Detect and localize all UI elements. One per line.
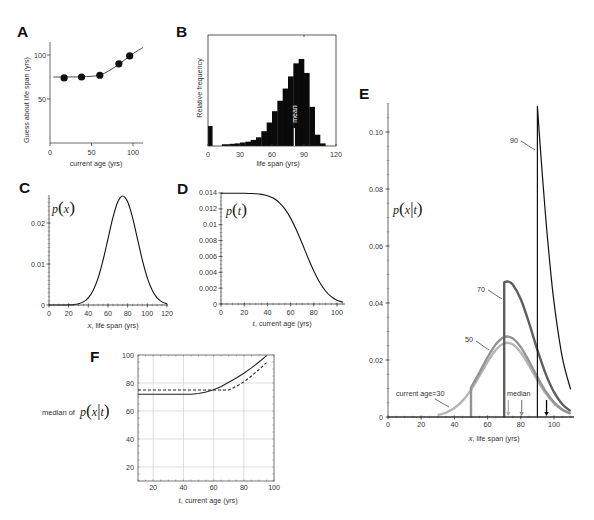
curve-label: 90 <box>510 136 518 145</box>
x-tick-label: 80 <box>124 309 132 318</box>
x-tick-label: 40 <box>263 308 271 317</box>
x-tick-label: 0 <box>386 420 390 429</box>
histogram-bar <box>309 107 315 146</box>
x-tick-label: 30 <box>236 150 244 159</box>
histogram-bar <box>240 143 246 146</box>
y-tick-label: 0.014 <box>199 188 217 197</box>
y-tick-label: 0 <box>41 301 45 310</box>
median-dashed-line <box>138 363 267 390</box>
panel-e-median-label: median <box>507 389 531 398</box>
x-axis-label-text: , current age (yrs) <box>181 496 238 505</box>
panel-letter-c: C <box>19 179 30 196</box>
math-glyph: ) <box>241 199 247 219</box>
x-tick-label: 100 <box>141 309 153 318</box>
math-glyph: ) <box>417 198 423 218</box>
panel-e-posterior-pxt: E x, life span (yrs) p(x|t) median 00.02… <box>359 85 574 443</box>
math-glyph: ) <box>104 400 110 420</box>
panel-e-plot-area: 00.020.040.060.080.10020406080100current… <box>369 104 574 430</box>
y-tick-label: 0.004 <box>199 268 217 277</box>
x-tick-label: 40 <box>179 483 187 492</box>
panel-d-pt: D t, current age (yrs) p(t) 00.0020.0040… <box>177 180 345 328</box>
panel-e-y-math-label: p(x|t) <box>392 198 423 218</box>
panel-letter-b: B <box>176 23 187 40</box>
histogram-bar <box>245 142 251 146</box>
data-point-marker <box>115 60 122 67</box>
math-glyph: p <box>51 202 58 216</box>
panel-b-x-axis-label: life span (yrs) <box>256 159 299 168</box>
x-tick-label: 90 <box>300 150 308 159</box>
histogram-bar <box>267 123 273 146</box>
x-tick-label: 0 <box>48 148 52 157</box>
x-tick-label: 20 <box>65 309 73 318</box>
panel-letter-f: F <box>90 348 99 365</box>
x-axis-label-text: , life span (yrs) <box>472 434 519 443</box>
x-tick-label: 100 <box>331 308 343 317</box>
curve-label: 50 <box>465 335 473 344</box>
panel-f-median-vs-age: F t, current age (yrs) median of p(x|t) … <box>42 348 280 505</box>
y-tick-label: 0.06 <box>369 242 383 251</box>
x-tick-label: 50 <box>88 148 96 157</box>
x-tick-label: 100 <box>127 148 139 157</box>
x-tick-label: 60 <box>484 420 492 429</box>
curve-label: 70 <box>477 285 485 294</box>
histogram-bar <box>261 131 267 146</box>
x-axis-label-text: , life span (yrs) <box>91 321 138 330</box>
x-tick-label: 120 <box>330 150 342 159</box>
x-tick-label: 40 <box>84 309 92 318</box>
y-tick-label: 0.04 <box>369 299 383 308</box>
y-tick-label: 0 <box>213 300 217 309</box>
histogram-bar <box>315 135 321 146</box>
curve-label-leader <box>435 399 449 407</box>
y-tick-label: 0.10 <box>369 128 383 137</box>
panel-c-prior-px: C x, life span (yrs) p(x) 00.010.0202040… <box>19 179 173 330</box>
data-point-marker <box>126 52 133 59</box>
histogram-bar <box>283 89 289 146</box>
y-tick-label: 20 <box>126 463 134 472</box>
panel-letter-a: A <box>17 23 28 40</box>
x-tick-label: 0 <box>206 150 210 159</box>
panel-letter-e: E <box>359 85 369 102</box>
panel-e-x-axis-label: x, life span (yrs) <box>467 433 519 443</box>
histogram-bar <box>277 101 283 146</box>
x-tick-label: 0 <box>47 309 51 318</box>
y-tick-label: 0.02 <box>369 356 383 365</box>
posterior-curve-t-50 <box>471 337 571 417</box>
panel-a-y-axis-label: Guess about life span (yrs) <box>22 57 31 143</box>
x-tick-label: 60 <box>268 150 276 159</box>
histogram-bar <box>299 59 305 146</box>
x-tick-label: 80 <box>310 308 318 317</box>
y-tick-label: 0.08 <box>369 185 383 194</box>
histogram-bar <box>251 140 257 146</box>
median-arrow-head-icon <box>519 412 523 416</box>
y-tick-label: 0.01 <box>203 220 217 229</box>
x-tick-label: 60 <box>210 483 218 492</box>
x-tick-label: 100 <box>548 420 560 429</box>
panel-f-y-axis-label-prefix: median of <box>42 408 76 417</box>
posterior-curve-t-90 <box>537 106 570 417</box>
x-tick-label: 20 <box>240 308 248 317</box>
panel-b-y-axis-label: Relative frequency <box>195 58 204 118</box>
histogram-bar <box>304 73 310 146</box>
y-tick-label: 0.006 <box>199 252 217 261</box>
panel-d-y-math-label: p(t) <box>225 199 247 219</box>
curve-label-leader <box>476 341 489 350</box>
y-tick-label: 0.02 <box>31 219 45 228</box>
curve-label: current age=30 <box>396 389 445 398</box>
x-tick-label: 60 <box>287 308 295 317</box>
y-tick-label: 60 <box>126 407 134 416</box>
panel-f-plot-area: 2040608010020406080100 <box>122 351 280 493</box>
math-glyph: p <box>392 203 399 217</box>
x-tick-label: 60 <box>104 309 112 318</box>
y-tick-label: 0.002 <box>199 284 217 293</box>
x-tick-label: 100 <box>268 483 280 492</box>
math-glyph: p <box>79 405 86 419</box>
x-tick-label: 20 <box>149 483 157 492</box>
y-tick-label: 0 <box>379 413 383 422</box>
x-axis-label-text: , current age (yrs) <box>255 319 312 328</box>
curve-label-leader <box>521 141 535 150</box>
panel-d-plot-area: 00.0020.0040.0060.0080.010.0120.01402040… <box>199 188 345 317</box>
data-point-marker <box>96 72 103 79</box>
panel-a-x-axis-label: current age (yrs) <box>70 159 123 168</box>
figure: A current age (yrs) Guess about life spa… <box>0 0 594 520</box>
median-arrow-head-icon <box>544 412 548 416</box>
